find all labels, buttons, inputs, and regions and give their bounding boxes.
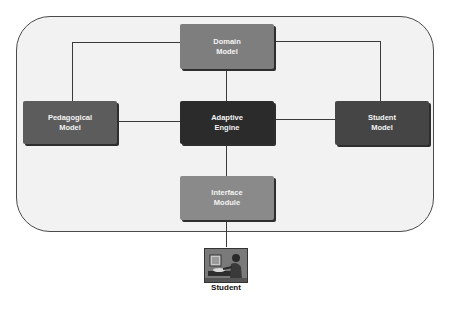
connector-domain-pedagogical-h	[72, 42, 180, 43]
interface-module-label-1: Interface	[211, 188, 242, 198]
connector-adaptive-interface	[226, 144, 227, 176]
connector-domain-adaptive	[226, 69, 227, 101]
connector-domain-student-h	[274, 41, 380, 42]
student-actor-label: Student	[196, 283, 256, 292]
interface-module-node: Interface Module	[180, 176, 274, 220]
pedagogical-model-label-2: Model	[48, 123, 92, 133]
adaptive-engine-node: Adaptive Engine	[180, 101, 274, 144]
domain-model-label-2: Model	[213, 47, 241, 57]
adaptive-engine-label-1: Adaptive	[211, 113, 243, 123]
connector-pedagogical-adaptive	[118, 121, 180, 122]
student-at-computer-icon	[204, 248, 248, 283]
domain-model-node: Domain Model	[180, 24, 274, 69]
connector-domain-student-v	[380, 41, 381, 101]
domain-model-label-1: Domain	[213, 37, 241, 47]
pedagogical-model-label-1: Pedagogical	[48, 113, 92, 123]
interface-module-label-2: Module	[211, 198, 242, 208]
student-model-label-1: Student	[368, 113, 396, 123]
adaptive-engine-label-2: Engine	[211, 123, 243, 133]
connector-adaptive-student	[274, 119, 335, 120]
connector-interface-student	[226, 220, 227, 247]
student-model-node: Student Model	[335, 101, 429, 145]
connector-domain-pedagogical-v	[72, 42, 73, 101]
student-model-label-2: Model	[368, 123, 396, 133]
pedagogical-model-node: Pedagogical Model	[23, 101, 117, 144]
